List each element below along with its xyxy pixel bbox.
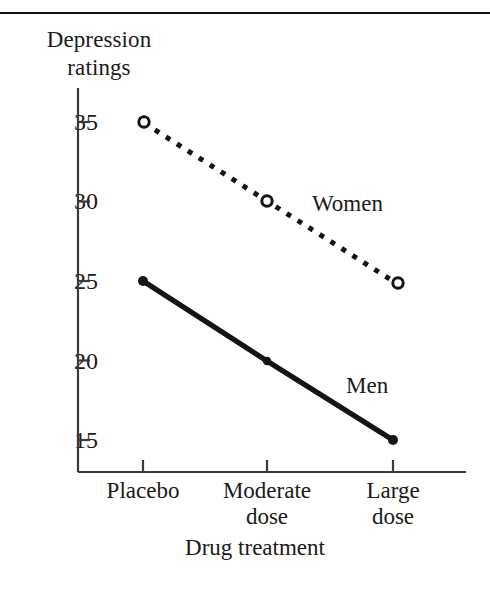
figure-container: Depression ratings 35 30 25 20 15 Placeb… <box>0 0 490 593</box>
x-tick-marks <box>143 460 393 472</box>
data-point-men-moderate-dose <box>263 357 271 365</box>
data-point-women-placebo <box>139 117 149 127</box>
data-point-men-placebo <box>138 276 148 286</box>
plot-area <box>0 0 490 593</box>
data-point-men-large-dose <box>388 435 398 445</box>
y-tick-marks <box>78 122 90 440</box>
data-point-women-moderate-dose <box>262 196 272 206</box>
data-point-women-large-dose <box>393 278 403 288</box>
